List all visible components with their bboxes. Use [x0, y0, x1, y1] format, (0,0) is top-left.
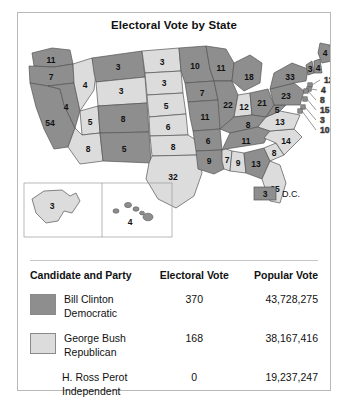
candidate-name-text: H. Ross Perot	[62, 371, 127, 385]
state-label-ky: 8	[246, 120, 251, 130]
candidate-cell: Bill ClintonDemocratic	[30, 293, 156, 320]
state-label-de: 3	[320, 115, 325, 125]
state-label-sc: 8	[272, 148, 277, 158]
state-label-id: 4	[83, 80, 88, 90]
state-label-ar: 6	[206, 136, 211, 146]
candidate-name: H. Ross PerotIndependent	[62, 371, 127, 398]
leader-line-nj	[307, 99, 316, 110]
state-label-ne: 5	[164, 101, 169, 111]
state-hi-island-0	[113, 209, 119, 214]
state-ct	[304, 89, 308, 93]
table-row: H. Ross PerotIndependent019,237,247	[18, 371, 330, 398]
state-label-tx: 32	[168, 172, 178, 182]
state-label-mi: 18	[244, 72, 254, 82]
state-hi-island-1	[125, 202, 132, 207]
candidate-name-text: George Bush	[64, 332, 126, 346]
state-label-ak: 3	[50, 201, 55, 211]
popular-vote-value: 43,728,275	[233, 293, 319, 305]
leader-line-ct	[308, 91, 316, 100]
candidate-party-text: Republican	[64, 346, 126, 360]
state-label-oh: 21	[257, 98, 267, 108]
state-label-mo: 11	[201, 112, 210, 122]
state-label-ia: 7	[200, 88, 205, 98]
state-label-tn: 11	[242, 136, 251, 146]
state-label-co: 8	[121, 114, 126, 124]
state-nj	[303, 97, 307, 101]
legend-swatch-democratic	[30, 294, 56, 315]
state-hi-island-4	[143, 213, 153, 221]
legend-swatch-none	[30, 372, 54, 391]
candidate-party-text: Independent	[62, 385, 127, 399]
state-label-nc: 14	[281, 136, 291, 146]
state-label-wy: 3	[119, 86, 124, 96]
header-candidate: Candidate and Party	[30, 269, 156, 281]
state-label-ga: 13	[251, 159, 261, 169]
state-label-nv: 4	[64, 102, 69, 112]
state-label-or: 7	[49, 72, 54, 82]
candidate-name-text: Bill Clinton	[64, 293, 117, 307]
state-label-md: 10	[320, 125, 330, 135]
table-header-row: Candidate and Party Electoral Vote Popul…	[18, 269, 330, 281]
state-md	[298, 109, 302, 113]
state-label-in: 12	[239, 102, 249, 112]
state-label-me: 4	[323, 48, 328, 58]
page-title: Electoral Vote by State	[18, 19, 330, 31]
state-label-nm: 5	[122, 144, 127, 154]
state-label-ca: 54	[45, 118, 55, 128]
electoral-vote-value: 370	[156, 293, 233, 305]
state-label-ct: 8	[320, 95, 325, 105]
results-table: Candidate and Party Electoral Vote Popul…	[18, 269, 330, 398]
state-label-sd: 3	[162, 78, 167, 88]
section-divider	[30, 260, 318, 261]
table-row: Bill ClintonDemocratic37043,728,275	[18, 293, 330, 320]
leader-line-ma	[312, 80, 320, 85]
us-map-svg: 1175444335885335683210711691122181221811…	[18, 33, 330, 255]
state-label-nj: 15	[320, 105, 330, 115]
state-label-ny: 33	[285, 72, 295, 82]
state-label-va: 13	[275, 117, 285, 127]
state-label-ut: 5	[88, 117, 93, 127]
state-label-nd: 3	[160, 57, 165, 67]
header-popular: Popular Vote	[233, 269, 319, 281]
state-label-az: 8	[86, 144, 91, 154]
state-label-pa: 23	[281, 91, 291, 101]
state-label-al: 9	[236, 158, 241, 168]
electoral-vote-value: 168	[156, 332, 233, 344]
state-label-wi: 11	[217, 63, 226, 73]
state-label-mn: 10	[190, 61, 200, 71]
table-row: George BushRepublican16838,167,416	[18, 332, 330, 359]
state-label-la: 9	[207, 156, 212, 166]
state-label-wa: 11	[47, 55, 56, 65]
state-label-ks: 6	[166, 122, 171, 132]
electoral-map: 1175444335885335683210711691122181221811…	[18, 33, 330, 253]
table-body: Bill ClintonDemocratic37043,728,275Georg…	[18, 293, 330, 398]
dc-legend-value: 3	[263, 189, 268, 199]
state-hi-island-2	[133, 207, 139, 212]
leader-line-ri	[311, 89, 317, 90]
dc-legend-label: D.C.	[282, 189, 300, 199]
state-label-vt: 3	[308, 64, 313, 74]
leader-line-de	[305, 107, 316, 120]
candidate-cell: George BushRepublican	[30, 332, 156, 359]
state-label-ri: 4	[321, 85, 326, 95]
candidate-name: George BushRepublican	[64, 332, 126, 359]
state-hi-island-3	[140, 211, 145, 215]
candidate-cell: H. Ross PerotIndependent	[30, 371, 156, 398]
state-label-ma: 12	[324, 75, 330, 85]
candidate-party-text: Democratic	[64, 307, 117, 321]
legend-swatch-republican	[30, 333, 56, 354]
state-label-ms: 7	[225, 155, 230, 165]
state-label-il: 22	[223, 100, 233, 110]
figure-frame: Electoral Vote by State 1175444335885335…	[17, 12, 331, 391]
header-electoral: Electoral Vote	[156, 269, 233, 281]
state-ak	[32, 190, 80, 223]
state-label-mt: 3	[116, 62, 121, 72]
state-label-ok: 8	[171, 142, 176, 152]
state-label-hi: 4	[128, 217, 133, 227]
candidate-name: Bill ClintonDemocratic	[64, 293, 117, 320]
leader-line-md	[302, 111, 316, 130]
popular-vote-value: 38,167,416	[233, 332, 319, 344]
state-label-wv: 5	[275, 105, 280, 115]
state-label-nh: 4	[316, 63, 321, 73]
popular-vote-value: 19,237,247	[233, 371, 319, 383]
